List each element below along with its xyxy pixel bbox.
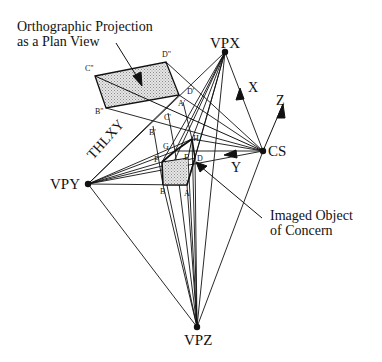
perspective-diagram: Orthographic Projection as a Plan View I…: [0, 0, 382, 362]
vertex-d2: D": [162, 50, 171, 59]
thl-label: THLXY: [84, 117, 127, 162]
vertex-h: H: [193, 134, 199, 143]
vpy-dot: [85, 181, 91, 187]
vertex-g: G: [163, 142, 169, 151]
vertex-d1: D': [187, 87, 195, 96]
plan-view-caption-line2: as a Plan View: [17, 34, 100, 49]
vertex-b: B: [160, 187, 165, 196]
vertex-a: A: [184, 189, 190, 198]
x-arrow-icon: [236, 88, 244, 100]
vertex-d: D: [197, 154, 203, 163]
vpx-label: VPX: [210, 35, 240, 51]
vertex-a1: A': [178, 99, 186, 108]
object-caption-line1: Imaged Object: [270, 208, 353, 223]
vertex-c1: C': [164, 113, 171, 122]
vpz-label: VPZ: [184, 332, 212, 348]
plan-view-caption-line1: Orthographic Projection: [17, 19, 153, 34]
plan-view-face: [95, 62, 179, 108]
object-caption-line2: of Concern: [270, 223, 333, 238]
vertex-e: E: [184, 153, 189, 162]
vertex-f: F: [154, 155, 159, 164]
z-axis-label: Z: [276, 93, 285, 108]
vertex-b2: B": [95, 107, 104, 116]
vpz-dot: [194, 324, 200, 330]
y-axis-label: Y: [231, 160, 241, 175]
cs-dot: [260, 148, 266, 154]
cs-label: CS: [268, 143, 286, 159]
object-front-face: [162, 158, 188, 185]
vertex-c2: C": [85, 64, 94, 73]
vpy-label: VPY: [50, 176, 80, 192]
x-axis-label: X: [248, 80, 258, 95]
vertex-b1: B': [149, 128, 156, 137]
